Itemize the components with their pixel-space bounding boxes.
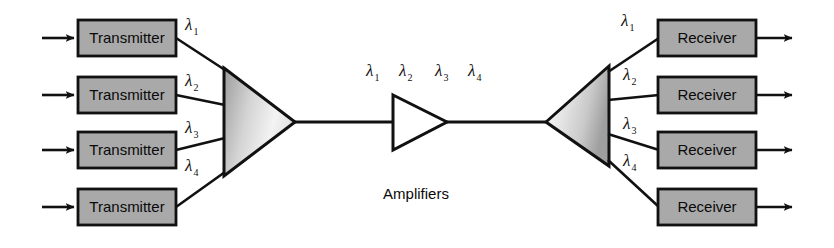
- demux-output-lines: [608, 38, 659, 207]
- wavelength-label-trunk-3: λ3: [434, 61, 448, 83]
- wavelength-label-tx-4: λ4: [184, 156, 198, 178]
- mux-feed-line-3: [176, 138, 225, 150]
- wavelength-label-trunk-1: λ1: [365, 61, 379, 83]
- transmitter-label-3: Transmitter: [89, 141, 164, 158]
- receiver-group: Receiver Receiver Receiver Receiver: [658, 20, 756, 225]
- wavelength-label-rx-3: λ3: [622, 114, 636, 136]
- demux-drop-line-2: [608, 95, 659, 100]
- transmitter-node-4[interactable]: Transmitter: [78, 189, 176, 225]
- demux-drop-line-3: [608, 134, 659, 150]
- multiplexer-triangle[interactable]: [224, 68, 295, 176]
- wavelength-label-rx-2: λ2: [622, 65, 636, 87]
- wavelength-label-tx-3: λ3: [184, 118, 198, 140]
- transmitter-label-2: Transmitter: [89, 86, 164, 103]
- trunk-wavelength-labels: λ1 λ2 λ3 λ4: [365, 61, 481, 83]
- multiplexer-node[interactable]: [224, 68, 295, 176]
- wavelength-label-rx-1: λ1: [620, 11, 634, 33]
- demux-drop-line-1: [608, 38, 659, 72]
- amplifiers-caption: Amplifiers: [383, 185, 449, 202]
- demultiplexer-triangle[interactable]: [546, 66, 609, 166]
- amplifier-triangle[interactable]: [393, 95, 447, 150]
- wavelength-label-tx-1: λ1: [184, 15, 198, 37]
- transmitter-label-4: Transmitter: [89, 198, 164, 215]
- demultiplexer-node[interactable]: [546, 66, 609, 166]
- mux-feed-line-2: [176, 95, 225, 105]
- receiver-wavelength-labels: λ1 λ2 λ3 λ4: [620, 11, 636, 173]
- mux-input-lines: [176, 38, 225, 207]
- wavelength-label-rx-4: λ4: [622, 151, 636, 173]
- transmitter-group: Transmitter Transmitter Transmitter Tran…: [78, 20, 176, 225]
- mux-feed-line-1: [176, 38, 225, 70]
- wdm-link-diagram: Transmitter Transmitter Transmitter Tran…: [0, 0, 834, 248]
- wavelength-label-trunk-2: λ2: [398, 61, 412, 83]
- mux-feed-line-4: [176, 172, 225, 207]
- receiver-node-3[interactable]: Receiver: [658, 132, 756, 168]
- receiver-node-2[interactable]: Receiver: [658, 77, 756, 113]
- diagram-canvas: Transmitter Transmitter Transmitter Tran…: [0, 0, 834, 248]
- wavelength-label-trunk-4: λ4: [467, 61, 481, 83]
- transmitter-node-1[interactable]: Transmitter: [78, 20, 176, 56]
- receiver-label-1: Receiver: [677, 29, 736, 46]
- amplifier-node[interactable]: [393, 95, 447, 150]
- receiver-label-4: Receiver: [677, 198, 736, 215]
- receiver-node-1[interactable]: Receiver: [658, 20, 756, 56]
- wavelength-label-tx-2: λ2: [184, 71, 198, 93]
- receiver-label-3: Receiver: [677, 141, 736, 158]
- transmitter-node-2[interactable]: Transmitter: [78, 77, 176, 113]
- receiver-node-4[interactable]: Receiver: [658, 189, 756, 225]
- transmitter-label-1: Transmitter: [89, 29, 164, 46]
- receiver-label-2: Receiver: [677, 86, 736, 103]
- transmitter-input-arrows: [42, 38, 74, 207]
- receiver-output-arrows: [756, 38, 792, 207]
- transmitter-node-3[interactable]: Transmitter: [78, 132, 176, 168]
